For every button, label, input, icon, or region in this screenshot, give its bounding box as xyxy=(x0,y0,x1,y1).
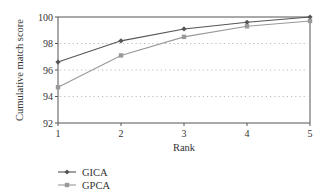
data-point-marker xyxy=(119,53,123,57)
legend-label: GICA xyxy=(82,167,108,178)
x-tick-label: 2 xyxy=(119,128,124,139)
y-tick-label: 94 xyxy=(43,91,53,102)
diamond-marker-icon xyxy=(64,169,69,174)
axes xyxy=(55,17,310,126)
legend-label: GPCA xyxy=(82,180,110,191)
x-tick-label: 5 xyxy=(308,128,313,139)
series-gica xyxy=(55,14,312,64)
line-chart: 9294969810012345 Rank Cumulative match s… xyxy=(0,0,327,195)
data-point-marker xyxy=(118,38,123,43)
y-tick-label: 98 xyxy=(43,38,53,49)
gridlines xyxy=(60,44,308,97)
data-point-marker xyxy=(55,59,60,64)
data-point-marker xyxy=(182,35,186,39)
square-marker-icon xyxy=(65,183,69,187)
y-tick-label: 92 xyxy=(43,118,53,129)
legend-item-gica: GICA xyxy=(58,167,108,178)
legend-item-gpca: GPCA xyxy=(58,180,110,191)
data-point-marker xyxy=(181,26,186,31)
y-tick-label: 100 xyxy=(38,12,53,23)
x-axis-label: Rank xyxy=(173,142,196,153)
y-axis-label: Cumulative match score xyxy=(14,19,25,121)
data-point-marker xyxy=(245,24,249,28)
legend: GICAGPCA xyxy=(58,167,110,191)
x-tick-label: 3 xyxy=(182,128,187,139)
data-point-marker xyxy=(308,19,312,23)
x-tick-label: 1 xyxy=(56,128,61,139)
data-point-marker xyxy=(56,85,60,89)
x-tick-label: 4 xyxy=(245,128,250,139)
y-tick-label: 96 xyxy=(43,65,53,76)
data-series xyxy=(55,14,312,89)
